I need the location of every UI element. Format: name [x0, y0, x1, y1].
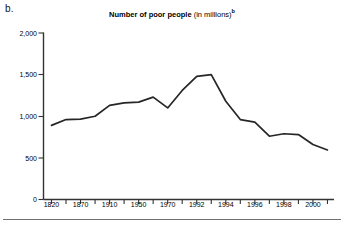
- y-tick-label-1000: 1,000: [3, 113, 37, 120]
- x-tick-label-1998: 1998: [269, 201, 299, 208]
- x-tick-label-2000: 2000: [298, 201, 328, 208]
- x-tick-label-1820: 1820: [36, 201, 66, 208]
- x-tick-label-1950: 1950: [124, 201, 154, 208]
- y-tick-label-0: 0: [3, 196, 37, 203]
- y-tick-label-500: 500: [3, 155, 37, 162]
- x-tick-label-1996: 1996: [240, 201, 270, 208]
- chart-canvas: [0, 0, 344, 215]
- y-axis-ticks: [39, 33, 44, 200]
- y-tick-label-1500: 1,500: [3, 71, 37, 78]
- plot-area: 0 500 1,000 1,500 2,000 1820187019101950…: [0, 0, 344, 215]
- footer-divider: [3, 219, 341, 220]
- data-line-poor-people: [51, 75, 327, 150]
- figure-panel-b: b. Number of poor people (in millions)b: [0, 0, 344, 229]
- x-tick-label-1994: 1994: [211, 201, 241, 208]
- x-tick-label-1870: 1870: [66, 201, 96, 208]
- x-tick-label-1910: 1910: [95, 201, 125, 208]
- x-tick-label-1970: 1970: [153, 201, 183, 208]
- x-tick-label-1992: 1992: [182, 201, 212, 208]
- y-tick-label-2000: 2,000: [3, 30, 37, 37]
